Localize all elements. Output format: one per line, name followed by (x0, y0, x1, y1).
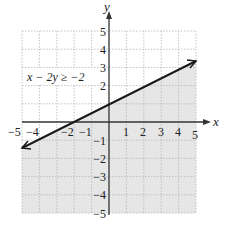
svg-text:2: 2 (100, 79, 106, 93)
svg-text:5: 5 (192, 128, 198, 142)
svg-text:−5: −5 (8, 125, 21, 139)
svg-text:−1: −1 (79, 125, 92, 139)
y-axis-label: y (102, 0, 110, 14)
svg-text:5: 5 (100, 25, 106, 39)
svg-text:−4: −4 (26, 125, 39, 139)
svg-text:−4: −4 (93, 188, 106, 202)
inequality-label: x − 2y ≥ −2 (26, 70, 84, 84)
x-axis-label: x (212, 114, 219, 129)
svg-text:−5: −5 (93, 207, 106, 221)
inequality-graph: x y −5 −4 −2 −1 1 2 3 4 5 5 4 3 2 −1 −2 … (0, 0, 228, 225)
svg-text:4: 4 (175, 125, 181, 139)
svg-text:2: 2 (140, 125, 146, 139)
svg-text:1: 1 (123, 125, 129, 139)
svg-text:4: 4 (100, 43, 106, 57)
svg-text:−3: −3 (93, 170, 106, 184)
svg-text:−2: −2 (93, 152, 106, 166)
svg-text:−1: −1 (93, 134, 106, 148)
x-axis-arrow-icon (203, 119, 211, 125)
svg-text:3: 3 (100, 61, 106, 75)
svg-text:3: 3 (158, 125, 164, 139)
